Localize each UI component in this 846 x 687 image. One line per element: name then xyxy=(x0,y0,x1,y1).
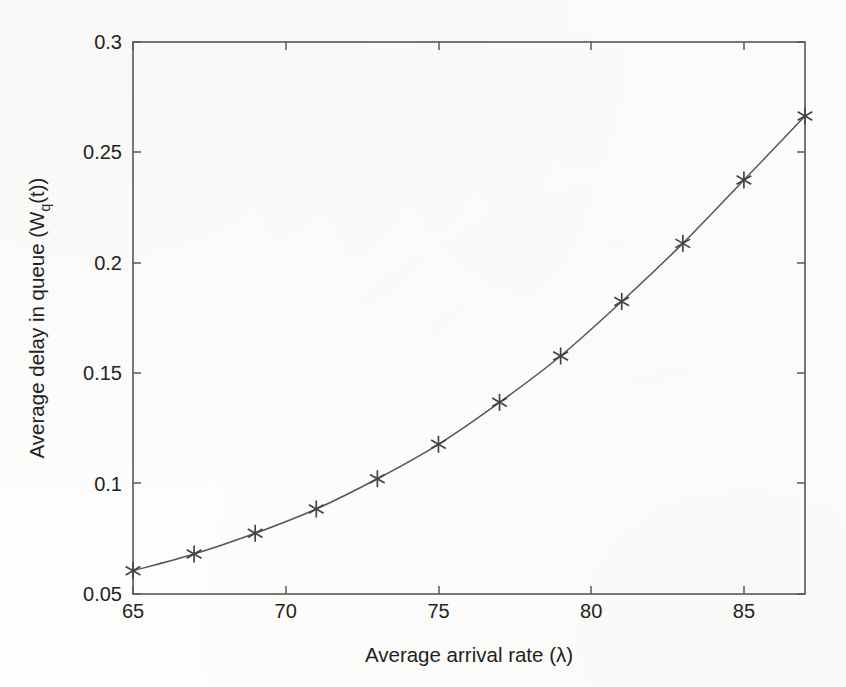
data-point-marker xyxy=(126,562,141,579)
figure-canvas: 6570758085 0.050.10.150.20.250.3 Average… xyxy=(0,0,846,687)
x-tick-label: 70 xyxy=(275,600,297,622)
y-tick-marks xyxy=(133,42,805,594)
y-axis-title-tail: (t)) xyxy=(25,178,48,204)
data-point-marker xyxy=(370,470,385,487)
x-tick-label: 75 xyxy=(427,600,449,622)
data-point-marker xyxy=(614,293,629,310)
y-axis-title-main: Average delay in queue (W xyxy=(25,211,48,459)
y-tick-label: 0.05 xyxy=(83,583,122,605)
x-tick-label: 80 xyxy=(580,600,602,622)
x-tick-marks xyxy=(133,42,744,594)
data-point-marker xyxy=(248,525,263,542)
y-axis-title-group: Average delay in queue (Wq(t)) xyxy=(25,178,53,459)
y-tick-label: 0.25 xyxy=(83,141,122,163)
series-line-average-delay xyxy=(133,116,805,571)
data-point-marker xyxy=(309,500,324,517)
data-point-marker xyxy=(553,347,568,364)
x-axis-tick-labels: 6570758085 xyxy=(122,600,755,622)
axes-box xyxy=(133,42,805,594)
x-tick-label: 65 xyxy=(122,600,144,622)
y-axis-title-subscript: q xyxy=(37,204,53,212)
y-tick-label: 0.3 xyxy=(94,31,122,53)
y-tick-label: 0.2 xyxy=(94,252,122,274)
axes-frame xyxy=(133,42,805,594)
data-point-marker xyxy=(187,546,202,563)
data-point-marker xyxy=(431,436,446,453)
y-axis-title: Average delay in queue (Wq(t)) xyxy=(25,178,53,459)
series-markers-group xyxy=(126,107,813,579)
data-series-group xyxy=(126,107,813,579)
line-chart-plot: 6570758085 0.050.10.150.20.250.3 Average… xyxy=(0,0,846,687)
y-axis-tick-labels: 0.050.10.150.20.250.3 xyxy=(83,31,122,605)
y-tick-label: 0.15 xyxy=(83,362,122,384)
x-tick-label: 85 xyxy=(733,600,755,622)
data-point-marker xyxy=(492,394,507,411)
y-tick-label: 0.1 xyxy=(94,473,122,495)
x-axis-title: Average arrival rate (λ) xyxy=(365,643,573,666)
